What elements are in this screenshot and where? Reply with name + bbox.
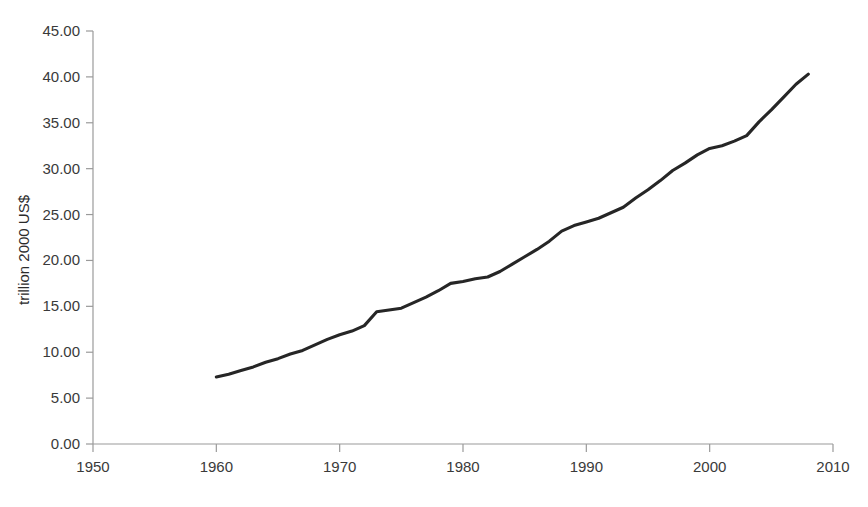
y-tick-label: 15.00 (42, 297, 80, 314)
data-series-group (216, 74, 808, 377)
y-tick-label: 5.00 (51, 389, 80, 406)
y-axis-title: trillion 2000 US$ (15, 194, 32, 305)
x-tick-label: 1950 (76, 458, 109, 475)
y-tick-label: 0.00 (51, 435, 80, 452)
chart-container: 0.005.0010.0015.0020.0025.0030.0035.0040… (0, 0, 868, 507)
y-tick-label: 25.00 (42, 206, 80, 223)
y-tick-label: 10.00 (42, 343, 80, 360)
y-axis-ticks (86, 31, 93, 444)
x-axis: 1950196019701980199020002010 (76, 444, 849, 475)
x-tick-label: 1960 (200, 458, 233, 475)
x-tick-label: 1990 (570, 458, 603, 475)
x-axis-tick-labels: 1950196019701980199020002010 (76, 458, 849, 475)
y-tick-label: 40.00 (42, 68, 80, 85)
series-line-gross-world-product (216, 74, 808, 377)
y-tick-label: 20.00 (42, 251, 80, 268)
x-axis-ticks (93, 444, 833, 452)
y-axis: 0.005.0010.0015.0020.0025.0030.0035.0040… (42, 22, 93, 452)
y-tick-label: 45.00 (42, 22, 80, 39)
y-tick-label: 35.00 (42, 114, 80, 131)
y-axis-tick-labels: 0.005.0010.0015.0020.0025.0030.0035.0040… (42, 22, 80, 452)
y-tick-label: 30.00 (42, 160, 80, 177)
line-chart: 0.005.0010.0015.0020.0025.0030.0035.0040… (0, 0, 868, 507)
x-tick-label: 2000 (693, 458, 726, 475)
x-tick-label: 1980 (446, 458, 479, 475)
x-tick-label: 2010 (816, 458, 849, 475)
x-tick-label: 1970 (323, 458, 356, 475)
